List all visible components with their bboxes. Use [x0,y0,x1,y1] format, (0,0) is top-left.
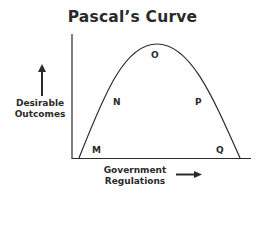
point-n: N [113,97,121,107]
x-axis-label: Government Regulations [98,165,172,187]
y-axis-label: Desirable Outcomes [10,98,70,120]
pascal-curve [79,44,240,158]
point-o: O [151,50,159,60]
up-arrow-icon [38,64,46,96]
point-m: M [92,145,101,155]
point-p: P [195,97,202,107]
point-q: Q [216,145,224,155]
right-arrow-icon [176,171,202,178]
